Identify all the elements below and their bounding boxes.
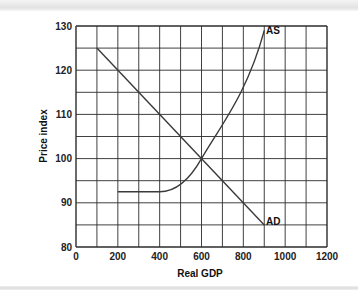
x-tick-label: 1000 — [274, 251, 297, 262]
x-tick-label: 1200 — [316, 251, 339, 262]
x-tick-label: 0 — [73, 251, 79, 262]
x-axis-ticks: 020040060080010001200 — [73, 251, 338, 262]
as-curve — [118, 30, 264, 191]
y-tick-label: 90 — [61, 197, 73, 208]
x-tick-label: 400 — [151, 251, 168, 262]
x-tick-label: 800 — [235, 251, 252, 262]
x-tick-label: 200 — [109, 251, 126, 262]
y-tick-label: 80 — [61, 242, 73, 253]
as-label: AS — [266, 25, 280, 36]
y-tick-label: 130 — [55, 21, 72, 32]
y-axis-title: Price index — [38, 109, 49, 163]
ad-label: AD — [266, 216, 280, 227]
bottom-border-bar — [0, 286, 358, 290]
x-axis-title: Real GDP — [177, 268, 223, 279]
y-axis-ticks: 8090100110120130 — [55, 21, 72, 253]
y-tick-label: 120 — [55, 65, 72, 76]
aggregate-supply-demand-chart: 8090100110120130 020040060080010001200 A… — [0, 0, 358, 295]
plot-grid — [76, 26, 327, 247]
x-tick-label: 600 — [193, 251, 210, 262]
y-tick-label: 100 — [55, 153, 72, 164]
y-tick-label: 110 — [56, 109, 73, 120]
